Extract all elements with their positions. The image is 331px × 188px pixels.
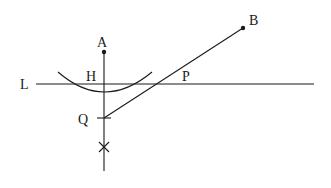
construction-arc bbox=[58, 72, 152, 92]
construction-diagram: A B L H P Q bbox=[0, 0, 331, 188]
label-h: H bbox=[86, 69, 96, 84]
line-qb bbox=[104, 28, 243, 118]
label-b: B bbox=[249, 13, 258, 28]
point-a bbox=[102, 50, 106, 54]
label-a: A bbox=[97, 35, 108, 50]
label-q: Q bbox=[78, 112, 88, 127]
label-p: P bbox=[182, 69, 190, 84]
point-b bbox=[241, 26, 245, 30]
label-l: L bbox=[20, 77, 29, 92]
